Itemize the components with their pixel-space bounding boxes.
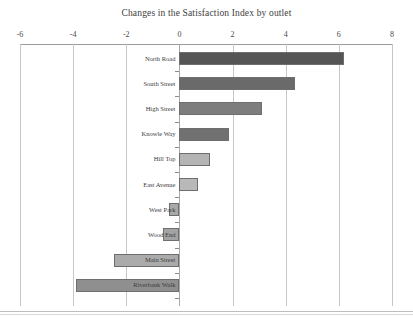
x-axis-line	[20, 44, 392, 45]
chart-title: Changes in the Satisfaction Index by out…	[0, 8, 413, 18]
y-tick-mark	[175, 147, 179, 148]
bar-chart-figure: Changes in the Satisfaction Index by out…	[0, 0, 413, 321]
bar[interactable]	[179, 178, 198, 191]
y-tick-mark	[175, 222, 179, 223]
figure-bottom-border	[0, 311, 413, 312]
figure-bottom-border-secondary	[0, 314, 413, 315]
y-tick-mark	[175, 71, 179, 72]
bar-row: North Road	[20, 52, 392, 65]
bar-row: Riverbank Walk	[20, 279, 392, 292]
bar-row: Main Street	[20, 254, 392, 267]
bar[interactable]	[179, 128, 228, 141]
bar-category-label: Main Street	[145, 257, 176, 264]
bar-category-label: Riverbank Walk	[133, 282, 175, 289]
bar-row: Wood End	[20, 228, 392, 241]
bar-category-label: Hill Top	[154, 156, 176, 163]
x-tick-label: 4	[284, 30, 288, 39]
bar-category-label: North Road	[145, 55, 176, 62]
bar-row: East Avenue	[20, 178, 392, 191]
bar-row: South Street	[20, 77, 392, 90]
bar-category-label: Knowle Way	[142, 131, 176, 138]
bar-row: Hill Top	[20, 153, 392, 166]
bar-category-label: Wood End	[148, 232, 175, 239]
bar-row: West Park	[20, 203, 392, 216]
x-tick-label: 2	[231, 30, 235, 39]
y-tick-mark	[175, 298, 179, 299]
x-tick-label: -4	[70, 30, 77, 39]
bar-category-label: High Street	[146, 106, 176, 113]
y-tick-mark	[175, 273, 179, 274]
x-tick-label: -2	[123, 30, 130, 39]
x-tick-label: 6	[337, 30, 341, 39]
bar-row: High Street	[20, 102, 392, 115]
plot-area: North RoadSouth StreetHigh StreetKnowle …	[20, 44, 392, 306]
bar[interactable]	[179, 52, 344, 65]
x-tick-label: -6	[17, 30, 24, 39]
bar-category-label: South Street	[143, 80, 175, 87]
bar-category-label: West Park	[149, 206, 175, 213]
y-tick-mark	[175, 122, 179, 123]
y-tick-mark	[175, 96, 179, 97]
x-tick-label: 0	[177, 30, 181, 39]
bar[interactable]	[179, 153, 210, 166]
bar[interactable]	[179, 102, 261, 115]
x-tick-label: 8	[390, 30, 394, 39]
y-tick-mark	[175, 172, 179, 173]
bar[interactable]	[179, 77, 295, 90]
gridline	[392, 44, 393, 306]
y-tick-mark	[175, 197, 179, 198]
bar-row: Knowle Way	[20, 128, 392, 141]
x-axis-tick-labels: -6-4-202468	[0, 30, 413, 42]
bar-category-label: East Avenue	[143, 181, 175, 188]
y-tick-mark	[175, 248, 179, 249]
